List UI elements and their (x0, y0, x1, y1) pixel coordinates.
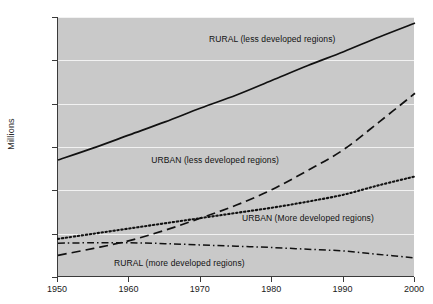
x-axis-tick-label: 1980 (248, 284, 294, 294)
x-axis-tick-mark (128, 277, 129, 282)
plot-area: RURAL (less developed regions)URBAN (les… (57, 17, 414, 277)
series-label-4: RURAL (more developed regions) (114, 258, 245, 268)
x-axis-tick-mark (271, 277, 272, 282)
x-axis-tick-label: 2000 (391, 284, 433, 294)
series-label-2: URBAN (less developed regions) (151, 155, 279, 165)
x-axis-tick-mark (200, 277, 201, 282)
x-axis-tick-label: 1990 (320, 284, 366, 294)
population-line-chart: Millions 05001,0001,5002,0002,5003,000 R… (0, 0, 433, 304)
x-axis-tick-mark (414, 277, 415, 282)
series-label-3: URBAN (More developed regions) (242, 213, 374, 223)
series-label-1: RURAL (less developed regions) (209, 34, 335, 44)
series-line-1 (58, 23, 415, 160)
x-axis-tick-mark (343, 277, 344, 282)
series-lines (58, 17, 415, 277)
series-line-3 (58, 176, 415, 238)
x-axis-tick-label: 1970 (177, 284, 223, 294)
y-axis-title: Millions (6, 104, 16, 164)
series-line-4 (58, 243, 415, 258)
x-axis-tick-mark (57, 277, 58, 282)
x-axis-tick-label: 1950 (34, 284, 80, 294)
x-axis-tick-label: 1960 (105, 284, 151, 294)
